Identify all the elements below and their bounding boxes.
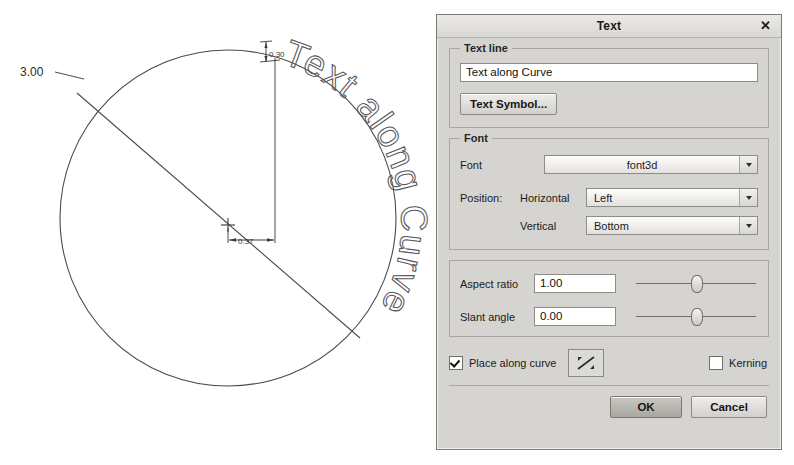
dimension-0-30-label: 0.30 bbox=[269, 50, 285, 59]
position-vertical-row: Vertical Bottom bbox=[460, 216, 758, 235]
ok-button[interactable]: OK bbox=[610, 396, 682, 418]
chevron-down-icon[interactable] bbox=[739, 217, 757, 234]
font-group-label: Font bbox=[460, 132, 492, 144]
vertical-label: Vertical bbox=[520, 220, 586, 232]
text-line-group: Text line Text Symbol... bbox=[449, 48, 769, 128]
place-along-curve-label: Place along curve bbox=[469, 357, 556, 369]
cad-drawing-canvas[interactable]: 3.00 0.37 0.30 Text along Curv bbox=[0, 0, 434, 465]
horizontal-select[interactable]: Left bbox=[586, 188, 758, 207]
position-horizontal-row: Position: Horizontal Left bbox=[460, 188, 758, 207]
horizontal-select-value: Left bbox=[587, 192, 739, 204]
slant-angle-row: Slant angle bbox=[460, 307, 756, 326]
slider-knob[interactable] bbox=[691, 308, 703, 326]
aspect-ratio-label: Aspect ratio bbox=[460, 278, 534, 290]
vertical-select[interactable]: Bottom bbox=[586, 216, 758, 235]
kerning-label: Kerning bbox=[729, 357, 767, 369]
slider-knob[interactable] bbox=[691, 275, 703, 293]
font-label: Font bbox=[460, 159, 544, 171]
text-line-group-label: Text line bbox=[460, 42, 512, 54]
kerning-checkbox[interactable] bbox=[709, 356, 723, 370]
slant-angle-input[interactable] bbox=[534, 307, 616, 326]
position-label: Position: bbox=[460, 192, 520, 204]
slant-angle-slider[interactable] bbox=[636, 309, 756, 325]
font-select[interactable]: font3d bbox=[544, 155, 758, 174]
slant-angle-label: Slant angle bbox=[460, 311, 534, 323]
dialog-title: Text bbox=[597, 19, 622, 33]
curve-text-path: Text along Curve bbox=[279, 32, 434, 322]
close-icon[interactable]: ✕ bbox=[757, 17, 773, 34]
text-dialog: Text ✕ Text line Text Symbol... Font Fon… bbox=[436, 14, 782, 450]
dimension-3-00-label: 3.00 bbox=[20, 65, 44, 79]
parameters-group: Aspect ratio Slant angle bbox=[449, 260, 769, 337]
font-group: Font Font font3d Position: Horizontal Le… bbox=[449, 138, 769, 250]
curve-text: Text along Curve bbox=[279, 32, 434, 322]
dialog-titlebar[interactable]: Text ✕ bbox=[437, 15, 781, 38]
aspect-ratio-slider[interactable] bbox=[636, 276, 756, 292]
text-line-input[interactable] bbox=[460, 63, 758, 82]
text-symbol-button[interactable]: Text Symbol... bbox=[460, 93, 557, 115]
dialog-body: Text line Text Symbol... Font Font font3… bbox=[437, 38, 781, 418]
flip-direction-button[interactable] bbox=[568, 349, 604, 377]
diagonal-arrow-icon bbox=[574, 354, 598, 372]
dimension-0-30-group: 0.30 bbox=[260, 41, 285, 62]
screenshot-root: 3.00 0.37 0.30 Text along Curv bbox=[0, 0, 794, 465]
options-row: Place along curve Kerning bbox=[449, 349, 769, 377]
diameter-line bbox=[77, 93, 360, 338]
cancel-button[interactable]: Cancel bbox=[691, 396, 767, 418]
drawing-svg: 3.00 0.37 0.30 Text along Curv bbox=[0, 0, 434, 465]
dialog-footer: OK Cancel bbox=[449, 386, 769, 418]
dimension-0-37-label: 0.37 bbox=[238, 237, 254, 246]
chevron-down-icon[interactable] bbox=[739, 156, 757, 173]
dimension-leader-line bbox=[55, 72, 84, 79]
font-select-value: font3d bbox=[545, 159, 739, 171]
aspect-ratio-input[interactable] bbox=[534, 274, 616, 293]
horizontal-label: Horizontal bbox=[520, 192, 586, 204]
aspect-ratio-row: Aspect ratio bbox=[460, 274, 756, 293]
vertical-select-value: Bottom bbox=[587, 220, 739, 232]
chevron-down-icon[interactable] bbox=[739, 189, 757, 206]
font-row: Font font3d bbox=[460, 155, 758, 174]
place-along-curve-checkbox[interactable] bbox=[449, 356, 463, 370]
